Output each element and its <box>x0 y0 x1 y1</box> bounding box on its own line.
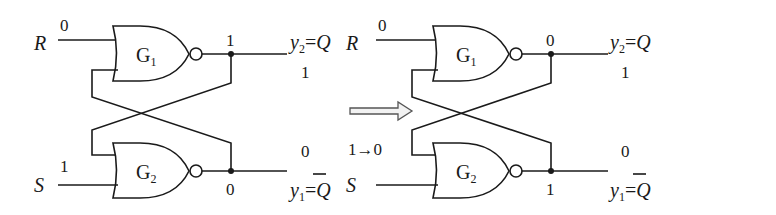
inverter-bubble-g2 <box>190 165 202 177</box>
junction-dot-g2 <box>228 168 234 174</box>
output-y1-value: 0 <box>621 142 630 161</box>
nor-gate-g1 <box>433 26 509 81</box>
inverter-bubble-g1 <box>190 48 202 60</box>
g2-output-value: 1 <box>546 180 555 199</box>
sr-latch-diagram: R 0 G1 1 y2=Q 1 G2 0 S 1 0 y1=Q <box>0 0 776 215</box>
output-y2-value: 1 <box>621 63 630 82</box>
output-y2-label: y2=Q <box>608 31 651 56</box>
inverter-bubble-g1 <box>510 48 522 60</box>
nor-gate-g2 <box>433 143 509 198</box>
input-r-label: R <box>33 32 46 54</box>
output-y2-label: y2=Q <box>288 31 331 56</box>
g1-output-value: 0 <box>546 31 555 50</box>
g1-output-value: 1 <box>226 31 235 50</box>
inverter-bubble-g2 <box>510 165 522 177</box>
input-s-label: S <box>34 174 44 196</box>
circuit-before: R 0 G1 1 y2=Q 1 G2 0 S 1 0 y1=Q <box>33 16 331 204</box>
input-r-label: R <box>345 32 358 54</box>
output-y2-value: 1 <box>301 63 310 82</box>
output-y1-label: y1=Q <box>288 179 331 204</box>
junction-dot-g2 <box>548 168 554 174</box>
output-y1-label: y1=Q <box>608 179 651 204</box>
g2-output-value: 0 <box>226 180 235 199</box>
transition-arrow-icon <box>350 102 412 120</box>
feedback-transition-label: 1→0 <box>348 140 382 159</box>
input-s-label: S <box>346 174 356 196</box>
input-s-value: 1 <box>60 157 69 176</box>
nor-gate-g2 <box>113 143 189 198</box>
output-y1-value: 0 <box>301 142 310 161</box>
input-r-value: 0 <box>60 16 69 35</box>
input-r-value: 0 <box>378 16 387 35</box>
nor-gate-g1 <box>113 26 189 81</box>
